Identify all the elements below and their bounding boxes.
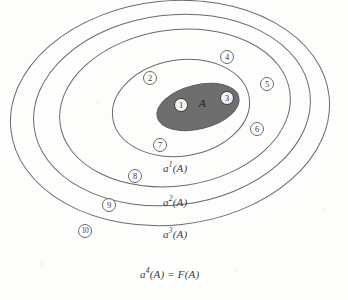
element-node-10[interactable]: 10 — [78, 224, 92, 238]
element-node-9-label: 9 — [107, 200, 111, 210]
element-node-8[interactable]: 8 — [128, 169, 142, 183]
element-node-6[interactable]: 6 — [250, 122, 264, 136]
set-a-blob — [152, 75, 244, 138]
ring-label-a4: a4(A) = F(A) — [140, 266, 199, 280]
set-a-label: A — [199, 97, 206, 109]
element-node-6-label: 6 — [255, 124, 259, 134]
element-node-8-label: 8 — [133, 171, 137, 181]
element-node-4-label: 4 — [225, 52, 229, 62]
element-node-1[interactable]: 1 — [174, 98, 188, 112]
element-node-3-label: 3 — [225, 93, 229, 103]
diagram-canvas — [0, 0, 348, 300]
element-node-4[interactable]: 4 — [220, 50, 234, 64]
element-node-10-label: 10 — [82, 226, 89, 235]
set-a-shape — [152, 75, 244, 138]
ring-label-a2-arg: (A) — [173, 196, 188, 208]
ring-label-a1: a1(A) — [163, 160, 187, 174]
element-node-5[interactable]: 5 — [260, 77, 274, 91]
ring-label-a1-arg: (A) — [173, 162, 188, 174]
element-node-2-label: 2 — [148, 73, 152, 83]
ring-label-a3: a3(A) — [163, 226, 187, 240]
element-node-9[interactable]: 9 — [102, 198, 116, 212]
element-node-1-label: 1 — [179, 100, 183, 110]
element-node-7-label: 7 — [158, 140, 162, 150]
element-node-7[interactable]: 7 — [153, 138, 167, 152]
element-node-3[interactable]: 3 — [220, 91, 234, 105]
element-node-5-label: 5 — [265, 79, 269, 89]
ring-label-a4-arg: (A) = F(A) — [150, 268, 200, 280]
element-node-2[interactable]: 2 — [143, 71, 157, 85]
ring-label-a2: a2(A) — [163, 194, 187, 208]
ring-label-a3-arg: (A) — [173, 228, 188, 240]
